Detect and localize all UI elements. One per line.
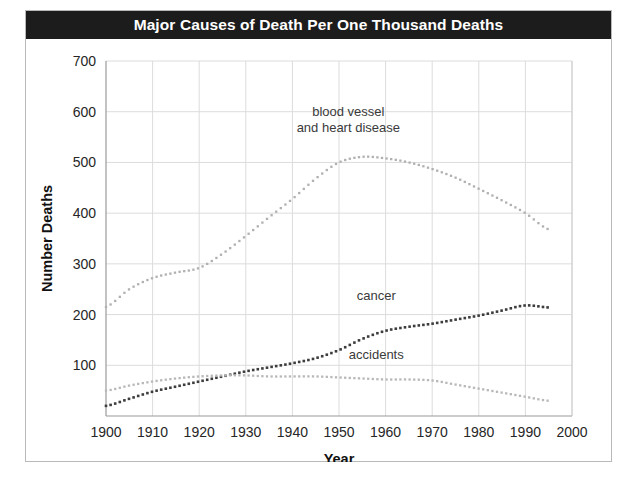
data-point-marker xyxy=(160,388,163,391)
data-point-marker xyxy=(441,321,444,324)
data-point-marker xyxy=(155,389,158,392)
y-tick-label: 500 xyxy=(73,154,97,170)
page-root: Major Causes of Death Per One Thousand D… xyxy=(0,0,634,484)
data-point-marker xyxy=(477,314,480,317)
data-point-marker xyxy=(303,188,305,190)
data-point-marker xyxy=(229,247,231,249)
data-point-marker xyxy=(464,181,466,183)
data-point-marker xyxy=(280,375,282,377)
data-point-marker xyxy=(284,375,286,377)
data-point-marker xyxy=(408,378,410,380)
data-point-marker xyxy=(445,320,448,323)
data-point-marker xyxy=(468,316,471,319)
data-point-marker xyxy=(330,166,332,168)
data-point-marker xyxy=(243,236,245,238)
data-point-marker xyxy=(353,157,355,159)
data-point-marker xyxy=(381,378,383,380)
data-point-marker xyxy=(491,194,493,196)
data-point-marker xyxy=(312,180,314,182)
data-point-marker xyxy=(510,307,513,310)
data-point-marker xyxy=(247,370,250,373)
data-point-marker xyxy=(160,379,162,381)
data-point-marker xyxy=(450,175,452,177)
data-point-marker xyxy=(533,304,536,307)
data-point-marker xyxy=(132,396,135,399)
data-point-marker xyxy=(464,385,466,387)
data-point-marker xyxy=(178,384,181,387)
data-point-marker xyxy=(312,358,315,361)
data-point-marker xyxy=(362,377,364,379)
series-label-line: blood vessel xyxy=(312,104,384,119)
data-point-marker xyxy=(234,374,236,376)
y-tick-label: 600 xyxy=(73,104,97,120)
series-label-blood: blood vesseland heart disease xyxy=(297,104,400,135)
data-point-marker xyxy=(155,380,157,382)
data-point-marker xyxy=(441,381,443,383)
data-point-marker xyxy=(197,267,199,269)
data-point-marker xyxy=(188,376,190,378)
data-point-marker xyxy=(211,260,213,262)
data-point-marker xyxy=(491,311,494,314)
data-point-marker xyxy=(335,376,337,378)
data-point-marker xyxy=(436,322,439,325)
data-point-marker xyxy=(280,207,282,209)
data-point-marker xyxy=(362,156,364,158)
data-point-marker xyxy=(252,229,254,231)
data-point-marker xyxy=(445,173,447,175)
data-point-marker xyxy=(546,400,548,402)
data-point-marker xyxy=(270,375,272,377)
data-point-marker xyxy=(482,388,484,390)
data-point-marker xyxy=(519,395,521,397)
data-point-marker xyxy=(165,379,167,381)
data-point-marker xyxy=(537,305,540,308)
data-point-marker xyxy=(303,375,305,377)
data-point-marker xyxy=(114,402,117,405)
data-point-marker xyxy=(487,192,489,194)
data-point-marker xyxy=(422,324,425,327)
data-point-marker xyxy=(183,376,185,378)
plot-area: 100200300400500600700 190019101920193019… xyxy=(26,39,611,462)
data-point-marker xyxy=(123,292,125,294)
data-point-marker xyxy=(298,192,300,194)
x-tick-label: 1970 xyxy=(417,424,448,440)
data-point-marker xyxy=(546,228,548,230)
data-point-marker xyxy=(201,379,204,382)
data-point-marker xyxy=(353,341,356,344)
data-point-marker xyxy=(367,156,369,158)
data-point-marker xyxy=(376,378,378,380)
series-label-accidents: accidents xyxy=(349,347,404,362)
data-point-marker xyxy=(546,306,549,309)
data-point-marker xyxy=(542,306,545,309)
data-point-marker xyxy=(155,276,157,278)
data-point-marker xyxy=(137,395,140,398)
data-point-marker xyxy=(298,361,301,364)
data-point-marker xyxy=(468,183,470,185)
data-point-marker xyxy=(316,176,318,178)
data-point-marker xyxy=(109,389,111,391)
data-point-marker xyxy=(385,329,388,332)
data-point-marker xyxy=(169,272,171,274)
data-point-marker xyxy=(238,240,240,242)
data-point-marker xyxy=(270,366,273,369)
data-point-marker xyxy=(330,376,332,378)
data-point-marker xyxy=(441,171,443,173)
data-point-marker xyxy=(321,355,324,358)
data-point-marker xyxy=(408,325,411,328)
data-point-marker xyxy=(266,366,269,369)
data-point-marker xyxy=(105,306,107,308)
chart-title: Major Causes of Death Per One Thousand D… xyxy=(134,16,504,34)
data-point-marker xyxy=(321,376,323,378)
y-tick-label: 400 xyxy=(73,205,97,221)
data-point-marker xyxy=(500,309,503,312)
data-point-marker xyxy=(132,384,134,386)
data-point-marker xyxy=(427,167,429,169)
data-point-marker xyxy=(454,177,456,179)
data-point-marker xyxy=(496,310,499,313)
data-point-marker xyxy=(349,377,351,379)
data-point-marker xyxy=(174,385,177,388)
data-point-marker xyxy=(404,378,406,380)
data-point-marker xyxy=(427,323,430,326)
data-point-marker xyxy=(114,388,116,390)
data-point-marker xyxy=(201,375,203,377)
data-point-marker xyxy=(372,334,375,337)
